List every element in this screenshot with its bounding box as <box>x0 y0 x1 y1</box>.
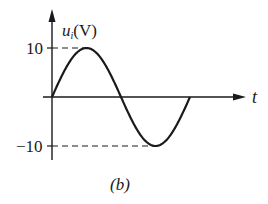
y-axis-label: ui(V) <box>62 22 97 41</box>
y-axis-symbol: u <box>62 21 71 40</box>
waveform-plot <box>0 0 268 204</box>
y-axis-unit: (V) <box>73 21 97 40</box>
tick-label-max: 10 <box>26 40 43 57</box>
x-axis-arrow-icon <box>233 94 246 101</box>
y-axis-arrow-icon <box>49 9 56 22</box>
x-axis-label: t <box>252 88 257 106</box>
sine-waveform-figure: ui(V) 10 −10 t (b) <box>0 0 268 204</box>
tick-label-min: −10 <box>16 138 43 155</box>
figure-caption: (b) <box>110 176 130 193</box>
